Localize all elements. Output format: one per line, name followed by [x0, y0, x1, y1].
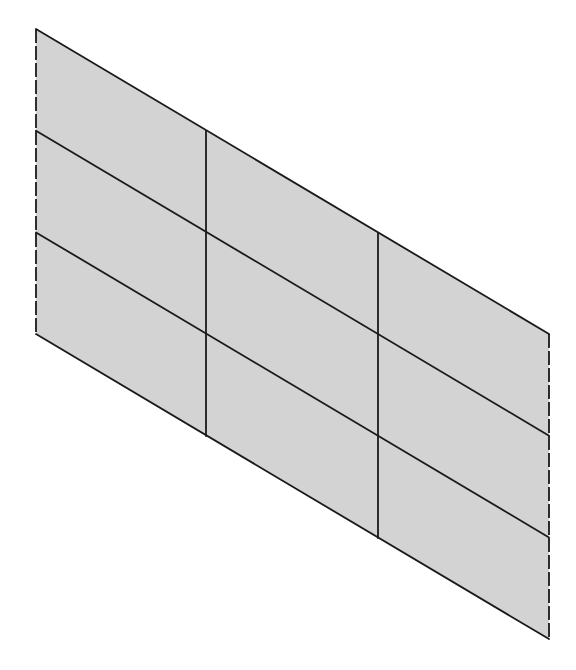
panel-fill	[36, 29, 549, 639]
sheared-grid-diagram	[0, 0, 576, 670]
panel-surface	[36, 29, 549, 639]
